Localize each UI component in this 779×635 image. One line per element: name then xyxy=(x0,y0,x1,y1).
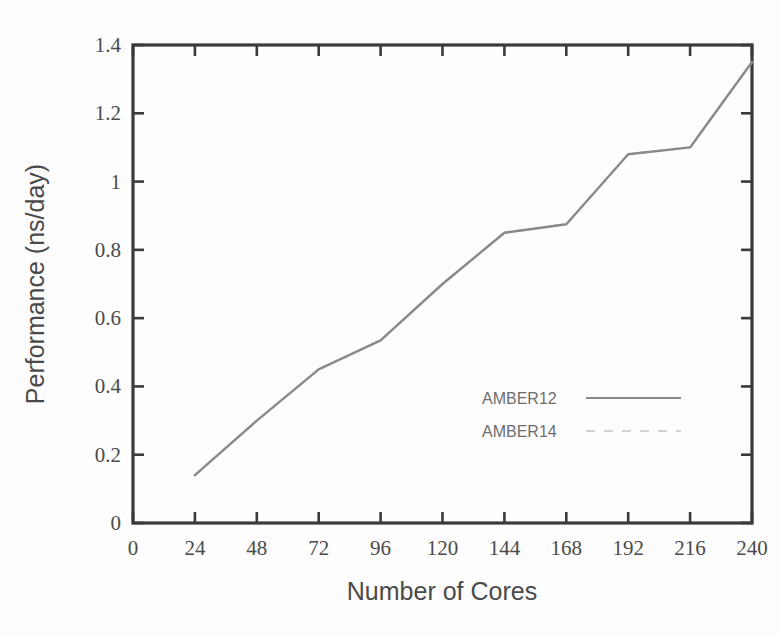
x-tick-label: 48 xyxy=(246,536,267,560)
x-tick-label: 120 xyxy=(427,536,459,560)
y-tick-label: 0 xyxy=(111,511,122,535)
x-tick-label: 96 xyxy=(370,536,391,560)
y-tick-label: 1.4 xyxy=(95,33,122,57)
chart-figure: 024487296120144168192216240 00.20.40.60.… xyxy=(0,0,779,635)
x-axis-title: Number of Cores xyxy=(347,577,537,605)
y-tick-label: 0.4 xyxy=(95,374,122,398)
series-line-amber12 xyxy=(195,62,752,475)
x-tick-label: 24 xyxy=(184,536,206,560)
y-tick-label: 0.6 xyxy=(95,306,121,330)
x-axis-tick-labels: 024487296120144168192216240 xyxy=(128,536,768,560)
chart-legend: AMBER12 AMBER14 xyxy=(482,390,681,440)
x-tick-label: 216 xyxy=(674,536,706,560)
legend-label-amber12: AMBER12 xyxy=(482,390,557,407)
x-tick-label: 192 xyxy=(612,536,644,560)
line-chart-canvas: 024487296120144168192216240 00.20.40.60.… xyxy=(0,0,779,635)
y-axis-title: Performance (ns/day) xyxy=(21,164,49,404)
x-tick-label: 240 xyxy=(736,536,768,560)
y-tick-label: 0.8 xyxy=(95,238,121,262)
y-axis-tick-labels: 00.20.40.60.811.21.4 xyxy=(95,33,122,535)
x-tick-label: 144 xyxy=(489,536,521,560)
series-line-amber14 xyxy=(195,62,752,475)
y-tick-label: 1.2 xyxy=(95,101,121,125)
x-tick-label: 0 xyxy=(128,536,139,560)
legend-label-amber14: AMBER14 xyxy=(482,423,557,440)
y-tick-label: 1 xyxy=(111,170,122,194)
x-tick-label: 72 xyxy=(308,536,329,560)
data-series-group xyxy=(195,62,752,475)
x-tick-label: 168 xyxy=(551,536,583,560)
y-tick-label: 0.2 xyxy=(95,443,121,467)
